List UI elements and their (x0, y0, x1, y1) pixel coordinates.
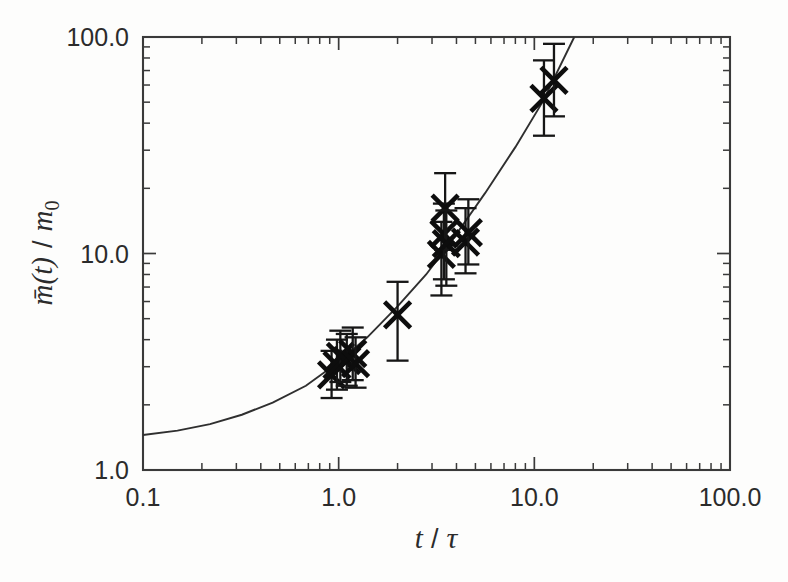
figure-container: 0.11.010.0100.0 1.010.0100.0 t/τ m̄(t)/m… (0, 0, 788, 582)
y-tick-label: 1.0 (94, 456, 129, 484)
log-log-scatter-plot: 0.11.010.0100.0 1.010.0100.0 t/τ m̄(t)/m… (0, 0, 788, 582)
data-point (385, 282, 411, 361)
x-tick-label: 0.1 (126, 483, 161, 511)
x-tick-label: 1.0 (321, 483, 356, 511)
y-axis-tick-labels: 1.010.0100.0 (66, 23, 129, 484)
x-tick-label: 100.0 (699, 483, 762, 511)
model-curve (143, 37, 574, 435)
y-tick-label: 100.0 (66, 23, 129, 51)
y-axis-label: m̄(t)/m0 (26, 201, 63, 306)
x-axis-label: t/τ (415, 521, 459, 554)
y-axis-label-group: m̄(t)/m0 (26, 201, 63, 306)
x-tick-label: 10.0 (510, 483, 559, 511)
x-axis-tick-labels: 0.11.010.0100.0 (126, 483, 762, 511)
data-points-with-errorbars (319, 44, 567, 398)
y-tick-label: 10.0 (80, 240, 129, 268)
